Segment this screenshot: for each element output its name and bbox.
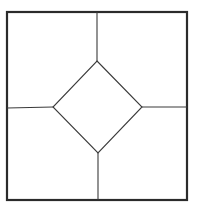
square-diamond-diagram: [0, 0, 200, 214]
center-diamond: [53, 61, 142, 153]
connector-left: [7, 107, 53, 108]
